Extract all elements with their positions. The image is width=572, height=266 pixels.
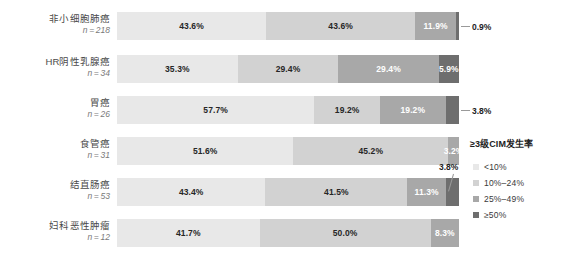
legend-item[interactable]: <10% — [473, 159, 572, 175]
segment-value-label: 50.0% — [333, 228, 358, 238]
chart-row: 非小细胞肺癌n = 21843.6%43.6%11.9%0.9% — [0, 12, 572, 40]
legend-item-list: <10%10%–24%25%–49%≥50% — [470, 159, 572, 223]
segment-value-label: 57.7% — [203, 105, 228, 115]
row-sample-size: n = 26 — [0, 109, 110, 120]
segment-value-label: 43.6% — [328, 21, 353, 31]
segment-value-label: 11.9% — [423, 21, 447, 31]
segment-value-label: 43.4% — [179, 187, 204, 197]
chart-row: 胃癌n = 2657.7%19.2%19.2%3.8% — [0, 96, 572, 124]
bar-segment: 5.9% — [439, 55, 459, 83]
row-category-name: 妇科恶性肿瘤 — [0, 220, 110, 232]
segment-value-label: 29.4% — [276, 64, 301, 74]
bar-segment: 50.0% — [260, 219, 431, 247]
bar-segment: 29.4% — [238, 55, 339, 83]
legend-item-label: 25%–49% — [484, 194, 524, 204]
row-label: 妇科恶性肿瘤n = 12 — [0, 220, 110, 243]
bar-segment: 19.2% — [314, 96, 380, 124]
bar-segment: 41.7% — [117, 219, 260, 247]
segment-callout-label: 0.9% — [472, 22, 491, 32]
bar-segment: 43.6% — [117, 12, 266, 40]
segment-value-label: 41.5% — [324, 187, 349, 197]
stacked-bar: 51.6%45.2%3.2% — [117, 137, 459, 165]
stacked-bar: 43.4%41.5%11.3% — [117, 178, 459, 206]
stacked-bar-chart: 非小细胞肺癌n = 21843.6%43.6%11.9%0.9%HR阴性乳腺癌n… — [0, 0, 572, 266]
row-label: HR阴性乳腺癌n = 34 — [0, 56, 110, 79]
segment-value-label: 45.2% — [358, 146, 383, 156]
segment-value-label: 11.3% — [415, 187, 439, 197]
legend-swatch-icon — [473, 180, 479, 186]
legend-item[interactable]: 25%–49% — [473, 191, 572, 207]
chart-row: 妇科恶性肿瘤n = 1241.7%50.0%8.3% — [0, 219, 572, 247]
segment-callout-label: 3.8% — [472, 106, 491, 116]
row-category-name: 非小细胞肺癌 — [0, 13, 110, 25]
segment-value-label: 41.7% — [176, 228, 201, 238]
row-category-name: 胃癌 — [0, 97, 110, 109]
segment-value-label: 19.2% — [335, 105, 360, 115]
bar-segment: 51.6% — [117, 137, 293, 165]
row-category-name: HR阴性乳腺癌 — [0, 56, 110, 68]
legend-swatch-icon — [473, 212, 479, 218]
legend-item[interactable]: ≥50% — [473, 207, 572, 223]
bar-segment: 29.4% — [338, 55, 439, 83]
stacked-bar: 57.7%19.2%19.2% — [117, 96, 459, 124]
legend-swatch-icon — [473, 196, 479, 202]
row-label: 胃癌n = 26 — [0, 97, 110, 120]
bar-segment — [446, 178, 459, 206]
row-sample-size: n = 34 — [0, 68, 110, 79]
row-sample-size: n = 12 — [0, 232, 110, 243]
segment-value-label: 43.6% — [179, 21, 204, 31]
row-label: 结直肠癌n = 53 — [0, 179, 110, 202]
legend-item-label: 10%–24% — [484, 178, 524, 188]
stacked-bar: 35.3%29.4%29.4%5.9% — [117, 55, 459, 83]
bar-segment: 43.6% — [266, 12, 415, 40]
segment-value-label: 51.6% — [193, 146, 218, 156]
bar-segment: 35.3% — [117, 55, 238, 83]
stacked-bar: 41.7%50.0%8.3% — [117, 219, 459, 247]
legend-item[interactable]: 10%–24% — [473, 175, 572, 191]
row-label: 非小细胞肺癌n = 218 — [0, 13, 110, 36]
row-sample-size: n = 31 — [0, 150, 110, 161]
bar-segment — [446, 96, 459, 124]
bar-segment: 45.2% — [293, 137, 448, 165]
segment-value-label: 29.4% — [376, 64, 401, 74]
chart-legend: ≥3级CIM发生率 <10%10%–24%25%–49%≥50% — [470, 137, 572, 223]
bar-segment: 11.3% — [407, 178, 446, 206]
legend-item-label: <10% — [484, 162, 507, 172]
segment-callout-label: 3.8% — [439, 162, 458, 172]
callout-leader-line — [461, 110, 470, 111]
bar-segment: 8.3% — [431, 219, 459, 247]
row-sample-size: n = 218 — [0, 25, 110, 36]
legend-title: ≥3级CIM发生率 — [470, 137, 572, 150]
bar-segment: 19.2% — [380, 96, 446, 124]
callout-leader-line — [461, 26, 470, 27]
segment-value-label: 19.2% — [401, 105, 426, 115]
row-label: 食管癌n = 31 — [0, 138, 110, 161]
row-category-name: 结直肠癌 — [0, 179, 110, 191]
segment-value-label: 35.3% — [165, 64, 190, 74]
legend-swatch-icon — [473, 164, 479, 170]
legend-item-label: ≥50% — [484, 210, 506, 220]
bar-segment — [456, 12, 459, 40]
segment-value-label: 8.3% — [435, 228, 455, 238]
chart-row: HR阴性乳腺癌n = 3435.3%29.4%29.4%5.9% — [0, 55, 572, 83]
row-category-name: 食管癌 — [0, 138, 110, 150]
bar-segment: 3.2% — [448, 137, 459, 165]
stacked-bar: 43.6%43.6%11.9% — [117, 12, 459, 40]
bar-segment: 43.4% — [117, 178, 265, 206]
bar-segment: 57.7% — [117, 96, 314, 124]
bar-segment: 41.5% — [265, 178, 407, 206]
row-sample-size: n = 53 — [0, 191, 110, 202]
segment-value-label: 5.9% — [439, 64, 459, 74]
bar-segment: 11.9% — [415, 12, 456, 40]
